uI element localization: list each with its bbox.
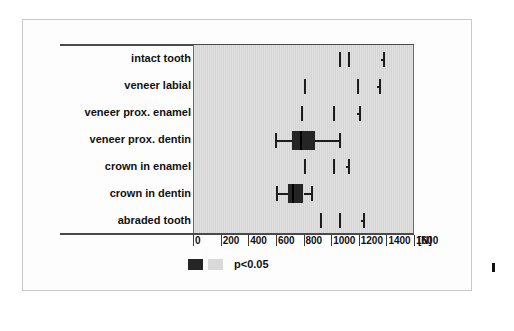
whisker-cap-low	[275, 133, 277, 148]
category-label: crown in enamel	[60, 160, 191, 172]
whisker-cap-low	[304, 159, 306, 174]
nonsignificant-light-swatch	[208, 259, 223, 270]
whisker-cap-high	[348, 159, 350, 174]
box-significant	[292, 131, 315, 150]
whisker-cap-high	[383, 52, 385, 67]
boxplot-row	[193, 126, 414, 153]
boxplot-row	[193, 152, 414, 179]
x-tick-mark	[331, 235, 332, 246]
x-tick-label: 400	[250, 235, 267, 246]
whisker-cap-high	[339, 133, 341, 148]
whisker-cap-low	[339, 52, 341, 67]
median-line	[357, 79, 359, 94]
whisker-cap-high	[359, 106, 361, 121]
whisker-cap-low	[301, 106, 303, 121]
category-label: abraded tooth	[60, 214, 191, 226]
whisker-cap-high	[379, 79, 381, 94]
whisker-cap-low	[320, 213, 322, 228]
median-line	[300, 131, 302, 150]
boxplot-series-layer	[193, 45, 414, 233]
x-tick-mark	[359, 235, 360, 246]
whisker-cap-high	[311, 186, 313, 201]
x-axis-unit-label: [N]	[418, 235, 432, 246]
x-tick-mark	[276, 235, 277, 246]
category-label: veneer labial	[60, 79, 191, 91]
box-significant	[288, 184, 303, 203]
category-label: veneer prox. enamel	[60, 106, 191, 118]
x-tick-mark	[304, 235, 305, 246]
x-tick-mark	[221, 235, 222, 246]
median-line	[348, 52, 350, 67]
x-tick-label: 0	[195, 235, 201, 246]
boxplot-row	[193, 72, 414, 99]
median-line	[333, 159, 335, 174]
category-label: intact tooth	[60, 52, 191, 64]
legend: p<0.05	[188, 258, 269, 270]
whisker-line	[304, 193, 312, 195]
category-label-column: intact toothveneer labialveneer prox. en…	[58, 45, 191, 233]
x-tick-label: 1400	[388, 235, 410, 246]
category-label: veneer prox. dentin	[60, 133, 191, 145]
legend-label: p<0.05	[234, 258, 269, 270]
boxplot-figure: intact toothveneer labialveneer prox. en…	[0, 0, 514, 331]
whisker-cap-low	[276, 186, 278, 201]
whisker-line	[275, 140, 292, 142]
x-tick-mark	[193, 235, 194, 246]
x-tick-mark	[386, 235, 387, 246]
boxplot-row	[193, 179, 414, 206]
x-tick-label: 1000	[333, 235, 355, 246]
x-tick-label: 1200	[361, 235, 383, 246]
whisker-line	[315, 140, 338, 142]
x-axis: 02004006008001000120014001600	[193, 235, 418, 251]
x-tick-mark	[414, 235, 415, 246]
median-line	[339, 213, 341, 228]
boxplot-row	[193, 99, 414, 126]
whisker-cap-high	[363, 213, 365, 228]
median-line	[292, 184, 294, 203]
x-tick-label: 200	[223, 235, 240, 246]
significant-dark-swatch	[188, 259, 203, 270]
x-tick-label: 800	[306, 235, 323, 246]
boxplot-row	[193, 45, 414, 72]
x-tick-label: 600	[278, 235, 295, 246]
whisker-cap-low	[304, 79, 306, 94]
median-line	[333, 106, 335, 121]
caption-marker	[492, 263, 495, 272]
x-tick-mark	[248, 235, 249, 246]
boxplot-row	[193, 206, 414, 233]
category-label: crown in dentin	[60, 187, 191, 199]
